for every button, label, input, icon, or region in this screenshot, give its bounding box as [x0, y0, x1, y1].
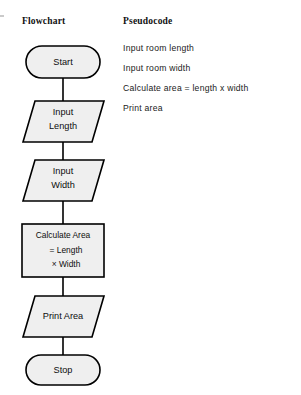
flowchart-node-calculate-area[interactable]: Calculate Area = Length × Width	[22, 224, 104, 277]
flowchart-node-input-width-label-line1: Input	[53, 166, 74, 176]
flowchart-node-input-length-label-line2: Length	[49, 121, 77, 131]
pseudocode-column-heading: Pseudocode	[123, 16, 173, 26]
flowchart-node-calculate-area-label-line2: = Length	[50, 245, 83, 255]
flowchart-node-calculate-area-label-line3: × Width	[52, 259, 81, 269]
flowchart-node-input-width[interactable]: Input Width	[23, 160, 104, 201]
flowchart-node-calculate-area-label-line1: Calculate Area	[36, 230, 91, 240]
pseudocode-line: Input room length	[123, 38, 301, 58]
flowchart-node-input-length[interactable]: Input Length	[23, 101, 104, 142]
flowchart-node-input-width-label-line2: Width	[51, 180, 75, 190]
flowchart-node-start-label: Start	[53, 57, 73, 67]
flowchart-node-start[interactable]: Start	[26, 46, 100, 78]
flowchart-svg: Start Input Length Input Width Calculate…	[0, 0, 120, 395]
pseudocode-line: Print area	[123, 98, 301, 118]
pseudocode-listing: Input room length Input room width Calcu…	[123, 38, 301, 118]
flowchart-node-input-length-label-line1: Input	[53, 107, 74, 117]
flowchart-diagram: Start Input Length Input Width Calculate…	[0, 0, 120, 395]
flowchart-node-print-area[interactable]: Print Area	[23, 296, 104, 337]
flowchart-node-print-area-label: Print Area	[43, 311, 84, 321]
flowchart-node-stop[interactable]: Stop	[26, 355, 100, 385]
pseudocode-line: Calculate area = length x width	[123, 78, 301, 98]
flowchart-node-stop-label: Stop	[54, 365, 73, 375]
pseudocode-line: Input room width	[123, 58, 301, 78]
